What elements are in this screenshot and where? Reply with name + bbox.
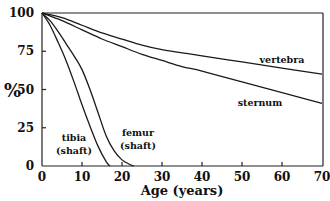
series-label: sternum [238,97,283,108]
series-labels: vertebrasternumtibia(shaft)femur(shaft) [56,54,304,156]
y-tick-label: 25 [17,121,34,135]
x-tick-label: 30 [154,170,171,184]
x-tick-label: 0 [38,170,46,184]
x-tick-label: 70 [314,170,330,184]
y-axis-title: % [4,80,21,101]
x-tick-label: 50 [234,170,251,184]
x-axis-title: Age (years) [140,183,224,198]
series-label: femur [122,127,155,138]
line-chart: 010203040506070 0255075100 vertebrastern… [0,0,330,201]
x-tick-label: 20 [114,170,131,184]
y-tick-label: 100 [9,6,34,20]
series-label: (shaft) [120,140,156,151]
vertebra-curve [42,13,322,74]
series-label: tibia [62,132,86,143]
series-label: (shaft) [56,145,92,156]
y-tick-label: 0 [26,159,34,173]
y-tick-label: 75 [17,44,34,58]
x-tick-label: 10 [74,170,91,184]
x-tick-label: 40 [194,170,211,184]
tibia-shaft-curve [42,13,110,166]
x-ticks: 010203040506070 [38,162,330,184]
series-label: vertebra [259,54,305,65]
series-curves [42,13,322,166]
x-tick-label: 60 [274,170,291,184]
axes [42,13,323,166]
